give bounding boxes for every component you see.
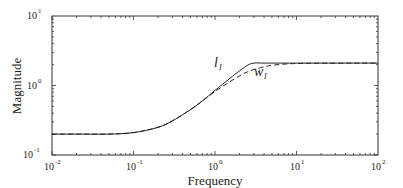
y-tick-10e1: 10 (27, 10, 37, 21)
annotation-l-main: l (214, 55, 218, 70)
annotation-w-main: w (254, 64, 264, 79)
x-tick-exp: 1 (301, 158, 305, 166)
x-tick-10e-2: 10 (44, 161, 54, 172)
y-axis-title: Magnitude (9, 58, 24, 115)
x-tick-10e1: 10 (290, 161, 300, 172)
y-tick-exp: 0 (38, 77, 42, 85)
annotation-l-I: l I (214, 55, 222, 72)
annotation-w-sub: I (263, 72, 267, 81)
annotation-l-sub: I (218, 63, 222, 72)
curve-l-i (52, 63, 378, 134)
x-tick-exp: -2 (55, 158, 61, 166)
y-tick-labels: 10 1 10 0 10 -1 (23, 7, 42, 160)
curve-w-i (52, 63, 378, 134)
x-axis-title: Frequency (188, 173, 243, 188)
magnitude-plot: 10 1 10 0 10 -1 10 -2 10 -1 10 0 10 1 10… (0, 0, 403, 188)
x-tick-exp: -1 (137, 158, 143, 166)
x-tick-10e-1: 10 (126, 161, 136, 172)
curves (52, 63, 378, 134)
annotation-w-I: w I (254, 64, 267, 81)
x-tick-10e0: 10 (208, 161, 218, 172)
y-tick-10e0: 10 (27, 80, 37, 91)
x-tick-labels: 10 -2 10 -1 10 0 10 1 10 2 (44, 158, 386, 172)
x-tick-exp: 0 (219, 158, 223, 166)
x-tick-exp: 2 (382, 158, 386, 166)
y-tick-exp: 1 (38, 7, 42, 15)
y-tick-10e-1: 10 (23, 149, 33, 160)
y-tick-exp: -1 (34, 146, 40, 154)
x-tick-10e2: 10 (371, 161, 381, 172)
